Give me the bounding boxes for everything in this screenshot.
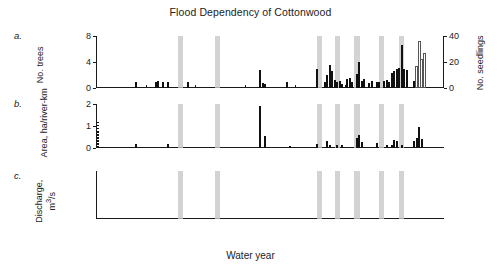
panel-a-ytick-right xyxy=(444,36,447,37)
panel-a-left-axis xyxy=(96,36,97,88)
panel-b-record-start-dot xyxy=(97,140,99,142)
figure-root: Flood Dependency of Cottonwood a. b. c. … xyxy=(0,0,501,272)
panel-a-tree-bar xyxy=(286,82,288,88)
panel-a-xtick xyxy=(345,85,346,88)
panel-a-tree-bar xyxy=(351,82,353,89)
panel-label-c: c. xyxy=(14,170,21,181)
panel-b-record-start-dot xyxy=(97,128,99,130)
panel-c-left-axis xyxy=(96,171,97,219)
panel-a-tree-bar xyxy=(363,79,365,88)
panel-b-area-bar xyxy=(167,144,169,148)
panel-b-record-start-dot xyxy=(97,131,99,133)
panel-a-xtick xyxy=(245,85,246,88)
panel-b-ytick-label: 2 xyxy=(86,99,91,109)
panel-b-ytick-label: 0 xyxy=(86,143,91,153)
panel-a-xtick xyxy=(195,85,196,88)
flood-band-1975 xyxy=(379,104,384,148)
panel-b-area-bar xyxy=(329,145,331,148)
panel-a-xtick xyxy=(295,85,296,88)
panel-a-ytick-right xyxy=(444,62,447,63)
panel-a-tree-bar xyxy=(167,82,169,89)
panel-b-area-bar xyxy=(386,145,388,148)
panel-b-area-bar xyxy=(361,142,363,148)
panel-a-ytick xyxy=(93,36,96,37)
panel-a-plot: 04802040 xyxy=(96,36,444,88)
panel-b-area-bar xyxy=(421,139,423,148)
flood-band-1965 xyxy=(354,171,359,219)
panel-b-area-bar xyxy=(264,136,266,148)
panel-a-ytick xyxy=(93,62,96,63)
panel-a-tree-bar xyxy=(378,82,380,89)
panel-c-ylabel-units: m3/s xyxy=(47,192,57,211)
panel-a-ytick-right-label: 0 xyxy=(449,83,454,93)
panel-a-xtick xyxy=(146,85,147,88)
panel-b-area-bar xyxy=(376,143,378,148)
panel-b-area-bar xyxy=(401,145,403,148)
flood-band-1909 xyxy=(215,104,220,148)
panel-b-record-start-dot xyxy=(97,143,99,145)
panel-c-baseline xyxy=(96,218,444,219)
panel-a-ylabel-right: No. seedlings xyxy=(476,26,486,100)
panel-a-tree-bar xyxy=(406,70,408,88)
panel-a-xtick xyxy=(394,85,395,88)
panel-c-ylabel-text: Discharge, xyxy=(34,180,44,223)
panel-b-record-start-dot xyxy=(97,125,99,127)
panel-a-tree-bar xyxy=(135,82,137,89)
panel-b-ytick xyxy=(93,104,96,105)
panel-a-ytick xyxy=(93,88,96,89)
panel-b-record-start-dot xyxy=(97,137,99,139)
panel-b-record-start-dot xyxy=(97,134,99,136)
figure-title: Flood Dependency of Cottonwood xyxy=(0,6,501,18)
panel-b-area-bar xyxy=(289,146,291,148)
panel-b-area-bar xyxy=(259,106,261,148)
panel-b-record-start-dot xyxy=(97,122,99,124)
panel-c-ylabel: Discharge, m3/s xyxy=(35,153,57,249)
panel-label-a: a. xyxy=(14,30,22,41)
flood-band-1983 xyxy=(399,104,404,148)
flood-band-1909 xyxy=(215,171,220,219)
panel-a-ytick-label: 0 xyxy=(86,83,91,93)
panel-b-area-bar xyxy=(316,144,318,148)
flood-band-1894 xyxy=(178,36,183,88)
flood-band-1975 xyxy=(379,171,384,219)
panel-a-ytick-label: 4 xyxy=(86,57,91,67)
panel-a-tree-bar xyxy=(162,82,164,89)
flood-band-1950 xyxy=(317,104,322,148)
panel-b-ytick xyxy=(93,126,96,127)
panel-b-ytick xyxy=(93,148,96,149)
panel-a-ytick-right-label: 40 xyxy=(449,31,459,41)
flood-band-1957 xyxy=(335,171,340,219)
panel-b-area-bar xyxy=(336,145,338,148)
panel-a-tree-bar xyxy=(187,82,189,89)
panel-b-area-bar xyxy=(341,145,343,148)
panel-b-plot: 012 xyxy=(96,104,444,148)
flood-band-1909 xyxy=(215,36,220,88)
panel-a-ytick-label: 8 xyxy=(86,31,91,41)
panel-b-record-start-dot xyxy=(97,146,99,148)
flood-band-1957 xyxy=(335,104,340,148)
panel-a-tree-bar xyxy=(371,81,373,88)
panel-a-seedling-bar xyxy=(423,53,426,88)
panel-b-area-bar xyxy=(135,144,137,148)
flood-band-1983 xyxy=(399,171,404,219)
panel-a-ytick-right-label: 20 xyxy=(449,57,459,67)
flood-band-1950 xyxy=(317,171,322,219)
panel-a-tree-bar xyxy=(316,69,318,88)
panel-label-b: b. xyxy=(14,98,22,109)
panel-a-ytick-right xyxy=(444,88,447,89)
panel-b-ytick-label: 1 xyxy=(86,121,91,131)
panel-a-tree-bar xyxy=(264,84,266,88)
flood-band-1894 xyxy=(178,104,183,148)
flood-band-1894 xyxy=(178,171,183,219)
x-axis-title: Water year xyxy=(0,250,501,261)
panel-b-area-bar xyxy=(396,141,398,148)
panel-a-tree-bar xyxy=(341,84,343,88)
panel-c-plot xyxy=(96,171,444,219)
panel-a-tree-bar xyxy=(157,81,159,88)
